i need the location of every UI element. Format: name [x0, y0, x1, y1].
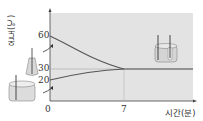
y-tick-30: 30	[38, 63, 49, 73]
y-tick-60: 60	[38, 30, 49, 40]
y-tick-20: 20	[38, 75, 49, 85]
x-tick-0: 0	[45, 104, 51, 114]
chart-canvas	[0, 0, 203, 121]
y-axis-arrow-icon	[49, 8, 52, 12]
test-tube-icon	[26, 48, 38, 76]
x-tick-7: 7	[121, 104, 127, 114]
y-axis-label: 온도(℃)	[6, 6, 20, 46]
x-axis-label: 시간(분)	[165, 106, 196, 118]
beaker-icon	[9, 75, 35, 101]
x-axis-arrow-icon	[193, 100, 197, 103]
